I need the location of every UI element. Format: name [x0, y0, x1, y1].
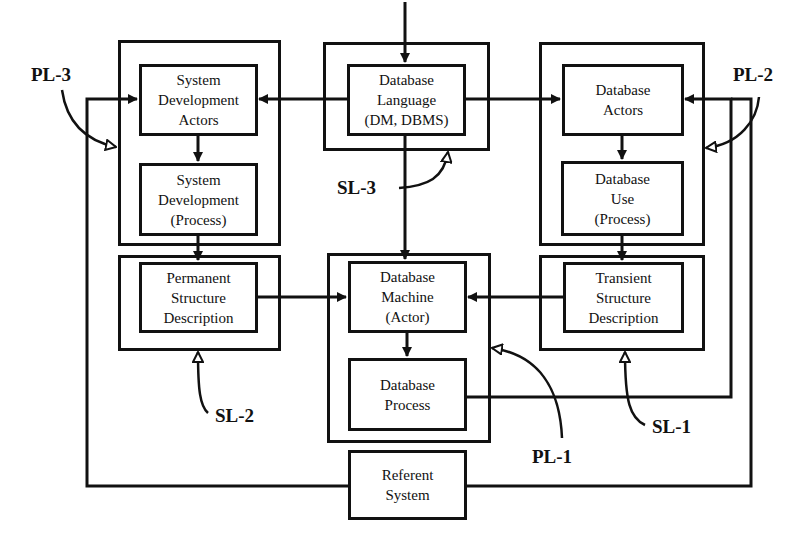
node-line: (DM, DBMS)	[364, 110, 448, 130]
node-line: Database	[380, 267, 435, 287]
node-line: Development	[158, 90, 239, 110]
node-line: Description	[589, 308, 659, 328]
node-line: System	[176, 170, 220, 190]
node-line: Database	[595, 169, 650, 189]
pl2-label: PL-2	[733, 64, 773, 86]
node-line: Referent	[382, 465, 434, 485]
sl2-pointer	[198, 352, 208, 413]
node-line: Development	[158, 190, 239, 210]
node-line: Language	[377, 90, 436, 110]
database-language-node[interactable]: Database Language (DM, DBMS)	[347, 64, 466, 136]
pl1-pointer	[492, 348, 562, 438]
referent-system-node[interactable]: Referent System	[348, 450, 467, 520]
transient-structure-description-node[interactable]: Transient Structure Description	[563, 262, 684, 333]
pl3-label: PL-3	[31, 64, 71, 86]
system-development-process-node[interactable]: System Development (Process)	[139, 163, 258, 236]
node-line: (Process)	[171, 210, 227, 230]
system-development-actors-node[interactable]: System Development Actors	[139, 64, 258, 136]
node-line: (Actor)	[385, 307, 429, 327]
node-line: Permanent	[166, 268, 230, 288]
database-machine-node[interactable]: Database Machine (Actor)	[348, 261, 467, 333]
pl1-label: PL-1	[532, 446, 572, 468]
node-line: Database	[379, 70, 434, 90]
sl3-label: SL-3	[337, 177, 376, 199]
node-line: System	[385, 485, 429, 505]
node-line: Structure	[596, 288, 651, 308]
node-line: Database	[596, 80, 651, 100]
permanent-structure-description-node[interactable]: Permanent Structure Description	[139, 262, 258, 333]
node-line: Structure	[171, 288, 226, 308]
node-line: (Process)	[595, 209, 651, 229]
node-line: Use	[611, 189, 634, 209]
node-line: Database	[380, 375, 435, 395]
node-line: Process	[385, 395, 431, 415]
database-process-node[interactable]: Database Process	[348, 358, 467, 431]
node-line: System	[176, 70, 220, 90]
sl1-pointer	[625, 352, 645, 425]
node-line: Description	[164, 308, 234, 328]
database-use-node[interactable]: Database Use (Process)	[561, 161, 684, 236]
node-line: Transient	[595, 268, 651, 288]
database-actors-node[interactable]: Database Actors	[562, 64, 684, 136]
sl1-label: SL-1	[652, 416, 691, 438]
node-line: Actors	[179, 110, 219, 130]
sl2-label: SL-2	[215, 405, 254, 427]
node-line: Actors	[603, 100, 643, 120]
node-line: Machine	[381, 287, 433, 307]
